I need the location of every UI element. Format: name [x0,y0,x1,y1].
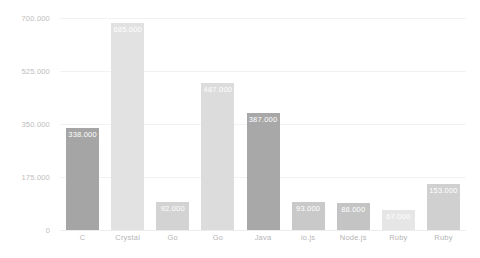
x-tick-label: Java [255,233,272,242]
bar-value-label: 338.000 [66,129,99,140]
x-tick-label: io.js [301,233,315,242]
bar-slot: 685.000 [111,18,144,230]
y-axis: 700.000525.000350.000175.0000 [0,18,56,230]
bar-value-label: 88.000 [339,204,367,215]
bar-value-label: 487.000 [202,84,235,95]
axis-baseline [60,230,466,231]
bar-value-label: 92.000 [159,203,187,214]
x-tick-label: Ruby [389,233,407,242]
bar-slot: 338.000 [66,18,99,230]
x-tick-label: Go [168,233,178,242]
bar-chart: 700.000525.000350.000175.0000 338.000685… [0,0,480,258]
bar-slot: 387.000 [247,18,280,230]
bar[interactable] [111,23,144,230]
x-tick-label: Ruby [434,233,452,242]
bar[interactable] [201,83,234,230]
y-tick-label: 700.000 [21,14,50,23]
y-tick-label: 0 [46,226,50,235]
x-axis: CCrystalGoGoJavaio.jsNode.jsRubyRuby [60,233,466,251]
bar-slot: 93.000 [292,18,325,230]
x-tick-label: Crystal [115,233,140,242]
bar-value-label: 93.000 [294,203,322,214]
bar-slot: 67.000 [382,18,415,230]
bar[interactable] [66,128,99,230]
bar-value-label: 153.000 [427,185,460,196]
bar-slot: 487.000 [201,18,234,230]
bar-slot: 92.000 [156,18,189,230]
bar[interactable] [247,113,280,230]
y-tick-label: 350.000 [21,120,50,129]
bar-series: 338.000685.00092.000487.000387.00093.000… [60,18,466,230]
plot-area: 338.000685.00092.000487.000387.00093.000… [60,18,466,230]
x-tick-label: C [80,233,86,242]
x-tick-label: Go [213,233,223,242]
x-tick-label: Node.js [340,233,367,242]
bar-value-label: 387.000 [247,114,280,125]
bar-slot: 153.000 [427,18,460,230]
y-tick-label: 525.000 [21,67,50,76]
bar-slot: 88.000 [337,18,370,230]
bar-value-label: 67.000 [384,211,412,222]
bar-value-label: 685.000 [111,24,144,35]
y-tick-label: 175.000 [21,173,50,182]
